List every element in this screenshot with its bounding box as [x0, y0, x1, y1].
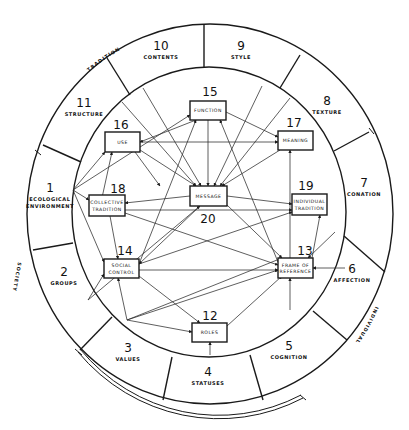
box-label: USE — [117, 140, 128, 145]
ring-section-ecological: 1ECOLOGICALENVIRONMENT — [26, 181, 74, 209]
box-frame — [278, 258, 313, 278]
box-label: FUNCTION — [194, 108, 222, 113]
ring-section-structure: 11STRUCTURE — [65, 96, 104, 117]
section-label: ENVIRONMENT — [26, 203, 74, 209]
ring-divider — [313, 311, 347, 340]
box-number: 12 — [202, 309, 217, 323]
box-label: SOCIAL — [112, 263, 132, 268]
box-number: 20 — [200, 212, 215, 226]
box-frame-of-reference: 13FRAME OFREFERENCE — [278, 244, 313, 278]
box-label: TRADITION — [91, 207, 122, 212]
ring-divider — [107, 58, 130, 95]
box-frame — [104, 259, 139, 278]
section-number: 11 — [76, 96, 91, 110]
ring-section-conation: 7CONATION — [347, 176, 381, 197]
box-number: 14 — [117, 244, 132, 258]
section-label: STATUSES — [192, 380, 225, 386]
influence-arrow — [135, 152, 160, 186]
ring-section-statuses: 4STATUSES — [192, 365, 225, 386]
box-label: CONTROL — [109, 270, 135, 275]
ring-section-groups: 2GROUPS — [50, 265, 77, 286]
section-number: 1 — [46, 181, 54, 195]
section-label: VALUES — [115, 356, 140, 362]
section-number: 2 — [60, 265, 68, 279]
box-message: 20MESSAGE — [190, 186, 227, 226]
influence-arrow — [127, 320, 192, 332]
section-label: CONATION — [347, 191, 381, 197]
ring-section-contents: 10CONTENTS — [144, 39, 179, 60]
ring-divider — [80, 317, 112, 350]
box-label: FRAME OF — [282, 263, 309, 268]
ring-divider — [250, 355, 263, 400]
box-number: 18 — [110, 182, 125, 196]
box-label: TRADITION — [294, 206, 325, 211]
group-label-society: SOCIETY — [12, 262, 22, 292]
ring-section-style: 9STYLE — [231, 39, 251, 60]
box-number: 15 — [202, 85, 217, 99]
section-label: ECOLOGICAL — [29, 196, 70, 202]
box-frame — [292, 194, 327, 215]
influence-arrow — [140, 120, 196, 142]
section-number: 3 — [124, 341, 132, 355]
folklore-process-diagram: 1ECOLOGICALENVIRONMENT2GROUPS3VALUES4STA… — [0, 0, 409, 430]
section-label: COGNITION — [270, 354, 307, 360]
box-label: INDIVIDUAL — [294, 199, 326, 204]
influence-arrow — [220, 120, 278, 262]
section-label: AFFECTION — [334, 277, 371, 283]
box-social-control: 14SOCIALCONTROL — [104, 244, 139, 278]
section-number: 4 — [204, 365, 212, 379]
influence-arrow — [118, 278, 127, 320]
box-individual-tradition: 19INDIVIDUALTRADITION — [292, 179, 327, 215]
section-number: 8 — [323, 94, 331, 108]
influence-arrow — [88, 206, 200, 300]
influence-arrow — [125, 196, 190, 203]
ring-divider — [334, 132, 369, 151]
box-label: ROLES — [201, 330, 219, 335]
influence-arrow — [140, 150, 196, 186]
section-label: STRUCTURE — [65, 111, 104, 117]
influence-arrow — [139, 120, 196, 264]
section-number: 5 — [285, 339, 293, 353]
section-label: CONTENTS — [144, 54, 179, 60]
influence-arrow — [227, 276, 282, 326]
influence-arrow — [226, 112, 278, 137]
box-number: 13 — [297, 244, 312, 258]
ring-divider — [43, 145, 81, 162]
influence-arrow — [222, 150, 280, 186]
box-number: 19 — [298, 179, 313, 193]
influence-arrow — [227, 196, 292, 204]
section-label: TEXTURE — [312, 109, 342, 115]
section-number: 10 — [153, 39, 168, 53]
section-label: STYLE — [231, 54, 251, 60]
influence-arrow — [312, 215, 320, 258]
box-label: REFERENCE — [280, 269, 312, 274]
ring-divider — [163, 357, 172, 400]
section-number: 7 — [360, 176, 368, 190]
box-roles: 12ROLES — [192, 309, 227, 342]
box-collective-tradition: 18COLLECTIVETRADITION — [89, 182, 126, 216]
ring-section-texture: 8TEXTURE — [312, 94, 342, 115]
box-frame — [89, 195, 125, 216]
ring-section-values: 3VALUES — [115, 341, 140, 362]
ring-divider — [280, 55, 300, 88]
ring-divider — [33, 243, 73, 250]
box-number: 17 — [286, 116, 301, 130]
box-label: COLLECTIVE — [90, 200, 123, 205]
box-meaning: 17MEANING — [278, 116, 313, 150]
box-function: 15FUNCTION — [190, 85, 226, 120]
influence-arrow — [139, 276, 200, 323]
section-number: 9 — [237, 39, 245, 53]
box-label: MEANING — [283, 138, 308, 143]
section-label: GROUPS — [50, 280, 77, 286]
ring-section-cognition: 5COGNITION — [270, 339, 307, 360]
box-label: MESSAGE — [196, 194, 222, 199]
influence-arrow — [88, 274, 104, 300]
box-use: 16USE — [105, 118, 140, 152]
section-number: 6 — [348, 262, 356, 276]
group-label-tradition: TRADITION — [86, 46, 121, 72]
ring-section-affection: 6AFFECTION — [334, 262, 371, 283]
box-number: 16 — [113, 118, 128, 132]
